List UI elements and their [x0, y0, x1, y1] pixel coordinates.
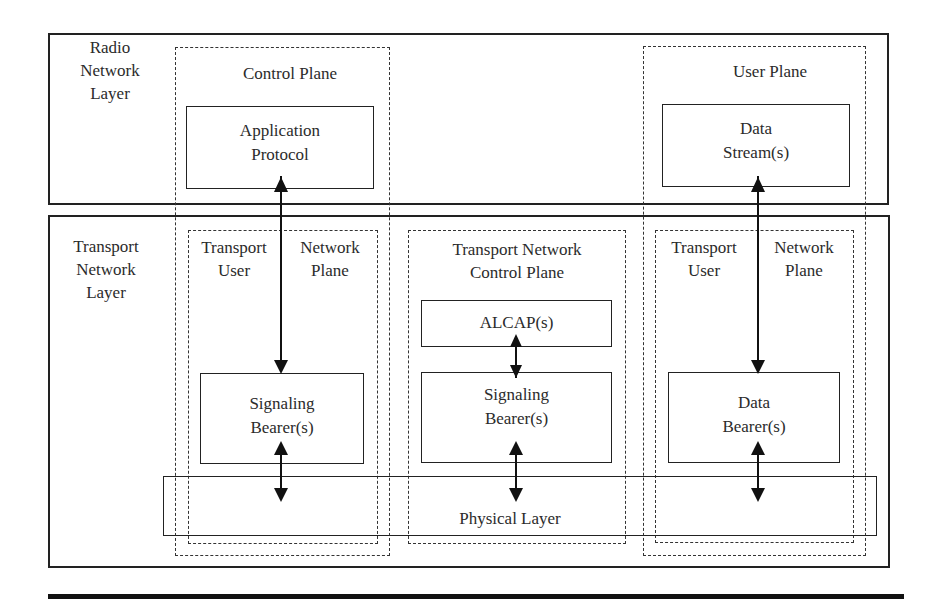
signaling-line: Signaling	[201, 392, 363, 416]
data-streams-text: Data Stream(s)	[663, 117, 849, 165]
tunp-left-col2: Network Plane	[288, 236, 372, 282]
tunp-right-network: Network	[762, 236, 846, 259]
tunp-right-col2: Network Plane	[762, 236, 846, 282]
transport-label-line3: Layer	[56, 281, 156, 304]
tunp-left-transport: Transport	[190, 236, 278, 259]
control-plane-label: Control Plane	[190, 62, 390, 85]
bottom-rule	[48, 594, 904, 599]
signaling-line: Signaling	[422, 383, 611, 407]
tunp-left-network: Network	[288, 236, 372, 259]
data-line: Data	[663, 117, 849, 141]
signaling-bearer-mid-box: Signaling Bearer(s)	[421, 372, 612, 463]
data-bearers-text: Data Bearer(s)	[669, 391, 839, 439]
signaling-bearer-left-box: Signaling Bearer(s)	[200, 373, 364, 464]
tunp-right-transport: Transport	[660, 236, 748, 259]
application-line: Application	[187, 119, 373, 143]
transport-network-layer-label: Transport Network Layer	[56, 235, 156, 304]
data-bearers-box: Data Bearer(s)	[668, 372, 840, 463]
tunp-right-col1: Transport User	[660, 236, 748, 282]
transport-label-line2: Network	[56, 258, 156, 281]
transport-label-line1: Transport	[56, 235, 156, 258]
radio-label-line1: Radio	[60, 36, 160, 59]
signaling-bearer-mid-text: Signaling Bearer(s)	[422, 383, 611, 431]
radio-network-layer-label: Radio Network Layer	[60, 36, 160, 105]
data-line: Data	[669, 391, 839, 415]
tunp-right-user: User	[660, 259, 748, 282]
tunp-left-user: User	[190, 259, 278, 282]
tncp-line1: Transport Network	[408, 238, 626, 261]
alcap-box: ALCAP(s)	[421, 300, 612, 347]
streams-line: Stream(s)	[663, 141, 849, 165]
bearer-line: Bearer(s)	[669, 415, 839, 439]
alcap-text: ALCAP(s)	[422, 311, 611, 335]
bearer-line: Bearer(s)	[422, 407, 611, 431]
tncp-line2: Control Plane	[408, 261, 626, 284]
bearer-line: Bearer(s)	[201, 416, 363, 440]
protocol-line: Protocol	[187, 143, 373, 167]
tunp-left-col1: Transport User	[190, 236, 278, 282]
tunp-right-plane: Plane	[762, 259, 846, 282]
tncp-label: Transport Network Control Plane	[408, 238, 626, 284]
radio-label-line2: Network	[60, 59, 160, 82]
signaling-bearer-left-text: Signaling Bearer(s)	[201, 392, 363, 440]
user-plane-label: User Plane	[700, 60, 840, 83]
data-streams-box: Data Stream(s)	[662, 104, 850, 187]
physical-layer-label: Physical Layer	[400, 507, 620, 530]
tunp-left-plane: Plane	[288, 259, 372, 282]
application-protocol-text: Application Protocol	[187, 119, 373, 167]
application-protocol-box: Application Protocol	[186, 106, 374, 189]
radio-label-line3: Layer	[60, 82, 160, 105]
